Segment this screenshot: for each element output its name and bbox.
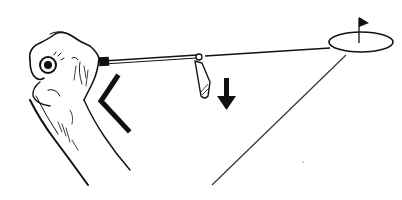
golf-illustration (0, 0, 402, 200)
diagonal-line (212, 55, 346, 185)
down-arrow-icon (217, 78, 236, 110)
illustration-svg (0, 0, 402, 200)
club-shaft (99, 54, 202, 66)
chevron-angle-icon (101, 77, 128, 130)
speck (302, 161, 304, 163)
iron-club-head-icon (195, 61, 210, 98)
gripping-hands (30, 32, 130, 185)
target-line (205, 48, 330, 56)
hole-with-flag-icon (329, 17, 393, 52)
